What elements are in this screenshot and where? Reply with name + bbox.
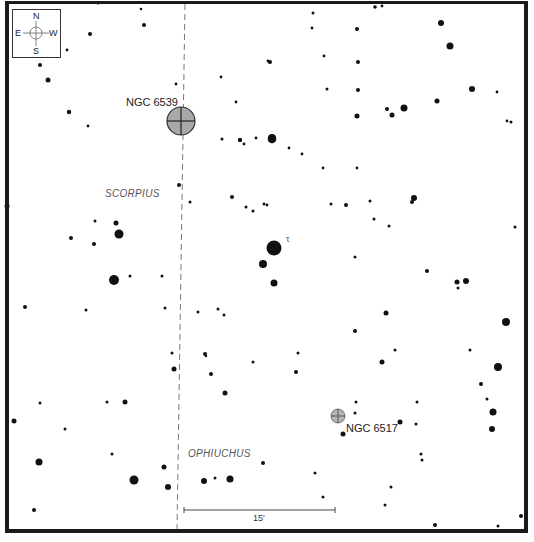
compass-rose: N S E W	[12, 9, 61, 58]
constellation-label-scorpius: SCORPIUS	[105, 188, 160, 199]
compass-south: S	[33, 47, 39, 56]
chart-frame	[5, 1, 528, 533]
compass-west: W	[49, 29, 58, 38]
compass-north: N	[33, 12, 40, 21]
scale-bar-label: 15'	[253, 513, 265, 523]
compass-east: E	[15, 29, 21, 38]
constellation-label-ophiuchus: OPHIUCHUS	[188, 448, 251, 459]
star-label-tau: τ	[286, 234, 290, 244]
object-label-ngc6539: NGC 6539	[126, 96, 178, 108]
object-label-ngc6517: NGC 6517	[346, 422, 398, 434]
star-chart: N S E W SCORPIUS OPHIUCHUS NGC 6539 NGC …	[0, 0, 534, 542]
